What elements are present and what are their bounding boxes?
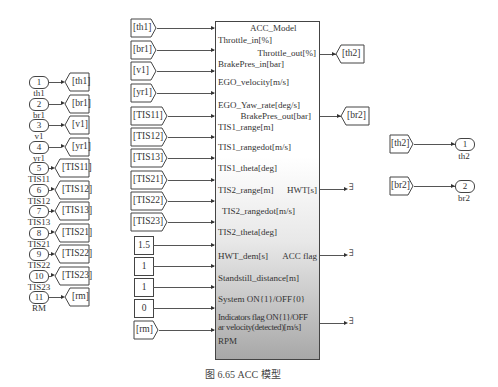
inport-label: TIS22 [22,261,56,270]
wire [168,180,214,181]
port-brakepres-in: BrakePres_in[bar] [218,59,284,69]
from-tag[interactable]: [rm] [134,321,158,339]
port-throttle-in: Throttle_in[%] [218,35,272,45]
inport-label: v1 [22,132,56,141]
from-tag[interactable]: [TIS21] [131,171,167,189]
port-hwt-dem: HWT_dem[s] [218,251,268,261]
goto-tag[interactable]: [br1] [65,95,89,113]
from-tag[interactable]: [th1] [131,19,156,37]
goto-tag[interactable]: [v1] [65,116,89,134]
arrow-icon [344,253,348,257]
wire [48,82,61,83]
from-tag[interactable]: [TIS11] [131,107,167,125]
goto-tag[interactable]: [TIS11] [55,159,89,177]
inport-label: th1 [22,89,56,98]
port-standstill-distance: Standstill_distance[m] [218,273,299,283]
wire [159,330,214,331]
outport-1[interactable]: 1 [455,138,475,151]
constant-block[interactable]: 0 [134,299,154,318]
from-tag[interactable]: [th2] [390,135,413,153]
outport-label: th2 [450,152,478,161]
wire [168,158,214,159]
wire [157,71,214,72]
inport-label: TIS11 [22,175,56,184]
goto-tag[interactable]: [yr1] [65,138,89,156]
wire [168,116,214,117]
port-tis2-theta: TIS2_theta[deg] [218,227,277,237]
wire [414,144,455,145]
from-tag[interactable]: [TIS13] [131,149,167,167]
terminator-icon[interactable]: ∃ [349,316,354,326]
inport-8[interactable]: 8 [29,227,49,240]
constant-block[interactable]: 1 [134,257,154,276]
wire [157,50,214,51]
acc-model-block[interactable]: ACC_Model Throttle_in[%] Throttle_out[%]… [215,21,320,360]
goto-tag[interactable]: [TIS12] [55,181,89,199]
port-tis1-range: TIS1_range[m] [218,122,273,132]
inport-2[interactable]: 2 [29,98,49,111]
wire [48,147,61,148]
wire [320,255,346,256]
port-system-on-off: System ON{1}/OFF{0} [218,294,305,304]
inport-label: TIS13 [22,218,56,227]
inport-10[interactable]: 10 [29,270,49,283]
outport-label: br2 [450,194,478,203]
wire [153,266,214,267]
constant-block[interactable]: 1.5 [134,236,154,255]
goto-tag[interactable]: [br2] [341,107,369,125]
inport-6[interactable]: 6 [29,184,49,197]
port-tis2-range: TIS2_range[m] [218,185,273,195]
wire [48,125,61,126]
from-tag[interactable]: [TIS22] [131,192,167,210]
port-target-velocity: ar velocity(detected)[m/s] [218,322,301,332]
constant-block[interactable]: 1 [134,278,154,297]
outport-2[interactable]: 2 [455,180,475,193]
terminator-icon[interactable]: ∃ [349,248,354,258]
from-tag[interactable]: [TIS12] [131,128,167,146]
port-tis1-rangedot: TIS1_rangedot[m/s] [218,142,291,152]
port-throttle-out: Throttle_out[%] [258,48,316,58]
wire [168,201,214,202]
port-indicators-flag: Indicators flag ON{1}/OFF [218,312,308,322]
port-tis2-rangedot: TIS2_rangedot[m/s] [222,206,295,216]
port-brakepres-out: BrakePres_out[bar] [241,111,311,121]
from-tag[interactable]: [yr1] [131,84,156,102]
wire [153,287,214,288]
port-ego-yaw-rate: EGO_Yaw_rate[deg/s] [218,100,300,110]
wire [157,28,214,29]
wire [48,104,61,105]
from-tag[interactable]: [br2] [390,177,413,195]
wire [153,245,214,246]
goto-tag[interactable]: [th2] [336,45,364,63]
goto-tag[interactable]: [rm] [65,288,89,306]
model-title: ACC_Model [250,23,297,33]
goto-tag[interactable]: [TIS21] [55,224,89,242]
from-tag[interactable]: [TIS23] [131,213,167,231]
wire [414,186,455,187]
inport-label: RM [22,304,56,313]
goto-tag[interactable]: [th1] [65,73,89,91]
arrow-icon [344,321,348,325]
wire [48,297,61,298]
port-ego-velocity: EGO_velocity[m/s] [218,77,289,87]
wire [168,222,214,223]
port-hwt: HWT[s] [287,185,317,195]
wire [153,308,214,309]
wire [320,189,346,190]
from-tag[interactable]: [v1] [131,62,156,80]
figure-caption: 图 6.65 ACC 模型 [205,366,281,381]
wire [320,323,346,324]
wire [168,137,214,138]
port-rpm: RPM [218,336,237,346]
goto-tag[interactable]: [TIS13] [55,202,89,220]
wire [157,93,214,94]
terminator-icon[interactable]: ∃ [349,182,354,192]
goto-tag[interactable]: [TIS22] [55,245,89,263]
port-tis1-theta: TIS1_theta[deg] [218,163,277,173]
port-acc-flag: ACC flag [282,251,317,261]
arrow-icon [344,187,348,191]
inport-4[interactable]: 4 [29,141,49,154]
from-tag[interactable]: [br1] [131,41,156,59]
goto-tag[interactable]: [TIS23] [55,267,89,285]
